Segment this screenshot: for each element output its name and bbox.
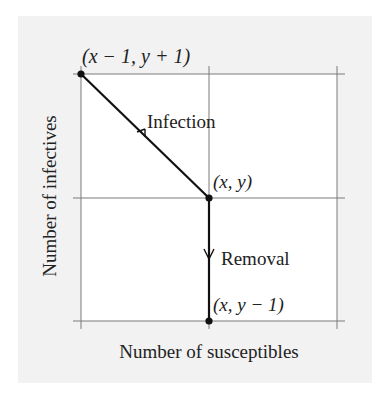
x-axis-label: Number of susceptibles [119, 341, 298, 362]
y-axis-label: Number of infectives [39, 115, 60, 276]
point-bottom [205, 317, 212, 324]
point-top-left [77, 70, 84, 77]
label-removal: Removal [221, 248, 290, 269]
point-center [205, 194, 212, 201]
label-center: (x, y) [213, 171, 252, 193]
label-bottom: (x, y − 1) [213, 294, 284, 316]
label-infection: Infection [147, 111, 216, 132]
diagram-canvas: (x − 1, y + 1) (x, y) (x, y − 1) Infecti… [0, 0, 384, 401]
label-top-left: (x − 1, y + 1) [82, 45, 190, 68]
